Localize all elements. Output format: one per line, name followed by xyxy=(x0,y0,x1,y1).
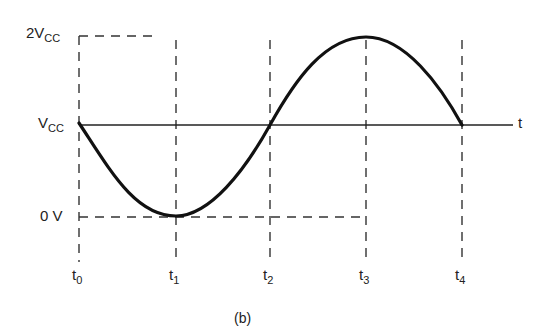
label-0v: 0 V xyxy=(40,207,63,224)
waveform-diagram xyxy=(0,0,549,333)
label-t4: t4 xyxy=(455,266,465,286)
figure-caption: (b) xyxy=(234,310,251,326)
label-t2: t2 xyxy=(263,266,273,286)
label-vcc: VCC xyxy=(38,114,64,134)
label-t-axis: t xyxy=(518,114,522,131)
label-t1: t1 xyxy=(169,266,179,286)
label-2vcc: 2VCC xyxy=(26,24,60,44)
label-t3: t3 xyxy=(359,266,369,286)
label-t0: t0 xyxy=(72,266,82,286)
